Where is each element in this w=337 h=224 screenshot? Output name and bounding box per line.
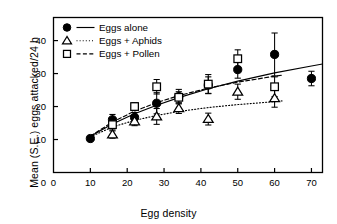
- legend-marker-open-triangle: [62, 36, 71, 43]
- legend: Eggs aloneEggs + AphidsEggs + Pollen: [62, 22, 162, 59]
- data-point-filled-circle: [153, 99, 161, 107]
- x-tick-label: 20: [122, 177, 133, 188]
- legend-label: Eggs alone: [99, 22, 149, 33]
- data-point-filled-circle: [234, 66, 242, 74]
- chart-canvas: 010203040506070 010203040 Eggs aloneEggs…: [0, 0, 337, 224]
- data-point-filled-circle: [86, 134, 94, 142]
- data-point-open-square: [131, 103, 139, 111]
- x-tick-label: 70: [306, 177, 317, 188]
- data-point-open-square: [271, 83, 279, 91]
- x-tick-label: 10: [85, 177, 96, 188]
- data-point-open-triangle: [203, 114, 213, 122]
- x-tick-label: 60: [269, 177, 280, 188]
- data-point-open-triangle: [108, 130, 118, 138]
- x-tick-label: 50: [232, 177, 243, 188]
- x-axis-ticks: [90, 168, 311, 173]
- data-point-filled-circle: [270, 50, 278, 58]
- data-point-open-square: [234, 55, 242, 63]
- legend-marker-filled-circle: [63, 24, 71, 32]
- legend-label: Eggs + Pollen: [99, 48, 160, 59]
- fit-curve-dashed: [90, 75, 282, 136]
- data-point-open-triangle: [233, 87, 243, 95]
- data-markers: [86, 50, 315, 142]
- data-point-filled-circle: [307, 74, 315, 82]
- x-tick-label: 30: [159, 177, 170, 188]
- x-axis-label: Egg density: [0, 207, 337, 219]
- legend-marker-open-square: [64, 50, 71, 57]
- x-tick-label: 0: [51, 177, 56, 188]
- data-point-open-square: [153, 83, 161, 91]
- y-tick-label: 0: [41, 177, 46, 188]
- data-point-open-square: [109, 121, 117, 129]
- x-tick-label: 40: [196, 177, 207, 188]
- chart-figure: 010203040506070 010203040 Eggs aloneEggs…: [0, 0, 337, 224]
- data-point-open-square: [175, 94, 183, 102]
- x-axis-tick-labels: 010203040506070: [51, 177, 317, 188]
- legend-label: Eggs + Aphids: [99, 35, 162, 46]
- y-axis-label: Mean (S.E.) eggs attacked/24 h: [28, 12, 41, 212]
- data-point-open-triangle: [270, 94, 280, 102]
- data-point-open-square: [204, 80, 212, 88]
- y-axis-ticks: [54, 41, 59, 140]
- data-point-open-triangle: [174, 104, 184, 112]
